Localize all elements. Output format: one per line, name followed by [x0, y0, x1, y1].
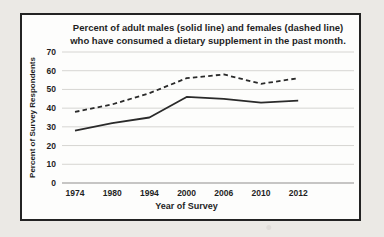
line-chart: 0102030405060701974198019942000200620102… — [22, 15, 355, 215]
y-tick-label-0: 0 — [51, 178, 56, 188]
y-tick-label-60: 60 — [47, 66, 57, 76]
chart-frame: Percent of adult males (solid line) and … — [20, 13, 361, 221]
x-tick-label-2010: 2010 — [252, 188, 271, 198]
y-tick-label-50: 50 — [47, 84, 57, 94]
x-tick-label-2000: 2000 — [177, 188, 196, 198]
y-tick-label-40: 40 — [47, 103, 57, 113]
x-tick-label-1980: 1980 — [103, 188, 122, 198]
y-axis-title: Percent of Survey Respondents — [28, 56, 37, 177]
series-dashed — [75, 74, 298, 111]
series-solid — [75, 97, 298, 131]
x-tick-label-1994: 1994 — [140, 188, 159, 198]
y-tick-label-10: 10 — [47, 159, 57, 169]
y-tick-label-70: 70 — [47, 47, 57, 57]
x-tick-label-1974: 1974 — [66, 188, 85, 198]
x-tick-label-2006: 2006 — [214, 188, 233, 198]
scanned-page: { "chart_data": { "type": "line", "title… — [0, 0, 384, 237]
y-tick-label-30: 30 — [47, 122, 57, 132]
x-axis-title: Year of Survey — [155, 201, 218, 211]
x-tick-label-2012: 2012 — [289, 188, 308, 198]
y-tick-label-20: 20 — [47, 141, 57, 151]
